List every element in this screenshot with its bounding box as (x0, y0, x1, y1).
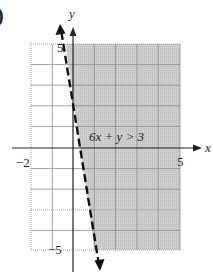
y-axis-arrow-icon (70, 27, 77, 36)
shaded-solution-region (66, 44, 180, 250)
line-arrow-down-icon (95, 259, 105, 271)
line-arrow-up-icon (56, 24, 66, 35)
x-min-tick-label: −2 (16, 155, 30, 170)
x-max-tick-label: 5 (177, 154, 184, 169)
inequality-graph: ) y x −2 5 5 −5 6 (0, 0, 213, 279)
y-axis-label: y (67, 6, 75, 21)
x-axis-arrow-icon (193, 145, 202, 152)
y-max-tick-label: 5 (57, 40, 64, 55)
figure-label: ) (0, 4, 4, 27)
x-axis-label: x (204, 140, 211, 155)
y-min-tick-label: −5 (48, 242, 62, 257)
inequality-label: 6x + y > 3 (89, 129, 145, 144)
